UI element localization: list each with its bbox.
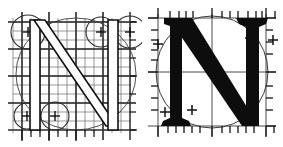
right-axis-ticks bbox=[130, 22, 137, 130]
panel-solid-letterform bbox=[142, 0, 283, 147]
letterform-construction-figure bbox=[0, 0, 283, 147]
panel-outline-construction bbox=[0, 0, 142, 147]
right-axis-ticks bbox=[266, 18, 276, 126]
solid-panel-canvas bbox=[142, 0, 283, 147]
outline-panel-canvas bbox=[0, 0, 142, 147]
letter-n-solid bbox=[161, 18, 268, 126]
bottom-axis-ticks bbox=[22, 130, 94, 141]
letter-n-outline bbox=[30, 20, 118, 130]
